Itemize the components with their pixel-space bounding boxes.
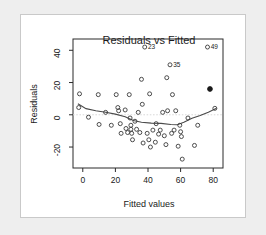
- y-axis-title: Residuals: [29, 84, 39, 124]
- x-tick-label: 0: [80, 175, 85, 185]
- x-tick-label: 20: [111, 175, 121, 185]
- y-tick-label: -20: [52, 144, 62, 157]
- y-tick-label: 40: [52, 48, 62, 58]
- outlier-label: 23: [148, 43, 156, 50]
- outlier-label: 49: [211, 43, 219, 50]
- x-tick-label: 60: [176, 175, 186, 185]
- y-tick-label: 0: [52, 115, 62, 120]
- x-tick-label: 40: [143, 175, 153, 185]
- x-axis-title: Fitted values: [123, 199, 175, 209]
- figure-panel: Residuals vs Fitted 020406080 -2002040 2…: [20, 14, 246, 218]
- highlighted-data-point: [208, 87, 213, 92]
- outlier-label: 35: [173, 61, 181, 68]
- y-tick-label: 20: [52, 81, 62, 91]
- residuals-vs-fitted-chart: Residuals vs Fitted 020406080 -2002040 2…: [21, 15, 245, 217]
- x-tick-label: 80: [208, 175, 218, 185]
